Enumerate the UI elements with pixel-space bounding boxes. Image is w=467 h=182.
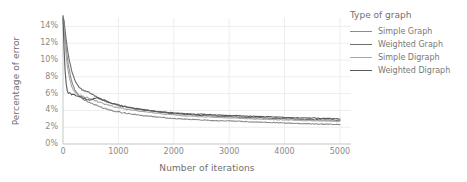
x-tick-label: 3000 [209, 147, 249, 156]
series-line [63, 16, 340, 125]
legend-items: Simple GraphWeighted GraphSimple Digraph… [350, 25, 466, 76]
y-tick-label: 14% [32, 21, 58, 30]
y-tick-label: 12% [32, 38, 58, 47]
x-tick-label: 5000 [320, 147, 360, 156]
error-convergence-chart: Percentage of error Number of iterations… [0, 0, 467, 182]
legend-item[interactable]: Simple Digraph [350, 51, 466, 63]
axis-lines [63, 18, 351, 144]
legend: Type of graph Simple GraphWeighted Graph… [350, 10, 466, 77]
y-tick-label: 4% [32, 105, 58, 114]
x-tick-label: 0 [43, 147, 83, 156]
legend-title: Type of graph [350, 10, 466, 20]
series-line [63, 17, 340, 121]
y-tick-label: 6% [32, 89, 58, 98]
legend-line-swatch [350, 70, 372, 71]
legend-item[interactable]: Weighted Graph [350, 38, 466, 50]
legend-line-swatch [350, 44, 372, 45]
legend-item-label: Simple Digraph [378, 53, 440, 62]
x-tick-label: 2000 [154, 147, 194, 156]
legend-item[interactable]: Weighted Digraph [350, 64, 466, 76]
y-tick-label: 2% [32, 122, 58, 131]
legend-item[interactable]: Simple Graph [350, 25, 466, 37]
legend-line-swatch [350, 57, 372, 58]
legend-item-label: Weighted Digraph [378, 66, 450, 75]
y-tick-label: 10% [32, 55, 58, 64]
legend-item-label: Simple Graph [378, 27, 432, 36]
series-lines [63, 16, 340, 125]
legend-line-swatch [350, 31, 372, 32]
legend-item-label: Weighted Graph [378, 40, 443, 49]
y-tick-label: 8% [32, 72, 58, 81]
x-tick-label: 1000 [98, 147, 138, 156]
gridlines [63, 18, 351, 144]
x-tick-label: 4000 [265, 147, 305, 156]
